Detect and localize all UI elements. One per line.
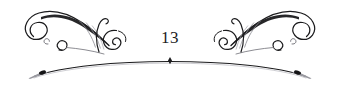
page-number: 13 (161, 28, 179, 47)
page-ornament-container: 13 (0, 0, 340, 91)
ornament-artwork: 13 (0, 0, 340, 91)
